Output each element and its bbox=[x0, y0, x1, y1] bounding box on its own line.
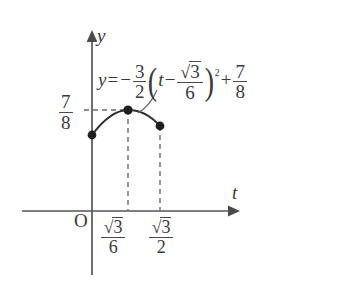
equation-leading-minus: − bbox=[119, 69, 132, 90]
y-value-label-7-8: 7 8 bbox=[58, 92, 74, 133]
fraction-denominator: 8 bbox=[233, 82, 247, 102]
fraction-sqrt3-2: √3 2 bbox=[149, 217, 173, 257]
fraction-numerator: √3 bbox=[177, 61, 202, 83]
equation-vertex-fraction: √3 6 bbox=[177, 61, 202, 103]
fraction-sqrt3-6: √3 6 bbox=[101, 217, 125, 257]
fraction-7-8: 7 8 bbox=[59, 92, 73, 133]
equation-constant-fraction: 7 8 bbox=[233, 62, 247, 103]
equation-coefficient-fraction: 3 2 bbox=[133, 62, 147, 103]
t-axis-label-text: t bbox=[232, 182, 237, 203]
point-vertex bbox=[123, 105, 132, 114]
origin-label: O bbox=[74, 211, 88, 230]
point-y-intercept bbox=[88, 131, 97, 140]
fraction-numerator: √3 bbox=[149, 217, 173, 238]
equation-annotation: y=− 3 2 (t− √3 6 )2+ 7 8 bbox=[98, 61, 248, 103]
radicand: 3 bbox=[112, 217, 123, 237]
fraction-denominator: 6 bbox=[177, 83, 202, 103]
fraction-denominator: 2 bbox=[149, 238, 173, 257]
equation-variable: t bbox=[158, 69, 163, 90]
radical: √3 bbox=[103, 217, 123, 237]
fraction-denominator: 8 bbox=[59, 113, 73, 133]
t-axis-label: t bbox=[232, 183, 237, 202]
equation-inner-minus: − bbox=[164, 69, 177, 90]
equation-exponent: 2 bbox=[215, 67, 220, 78]
fraction-denominator: 2 bbox=[133, 82, 147, 102]
radical: √3 bbox=[179, 61, 200, 82]
t-axis bbox=[22, 206, 240, 217]
point-right-endpoint bbox=[156, 122, 165, 131]
equation-plus: + bbox=[220, 69, 233, 90]
radical: √3 bbox=[151, 217, 171, 237]
open-paren: ( bbox=[148, 62, 157, 101]
tick-label-sqrt3-over-6: √3 6 bbox=[100, 217, 126, 257]
fraction-numerator: 7 bbox=[233, 62, 247, 83]
y-axis bbox=[87, 30, 98, 275]
math-figure: y t O 7 8 √3 6 √3 bbox=[0, 0, 341, 286]
fraction-numerator: 3 bbox=[133, 62, 147, 83]
equation-equals: = bbox=[106, 69, 119, 90]
y-axis-label-text: y bbox=[97, 25, 105, 46]
origin-label-text: O bbox=[74, 210, 88, 231]
tick-label-sqrt3-over-2: √3 2 bbox=[148, 217, 174, 257]
fraction-denominator: 6 bbox=[101, 238, 125, 257]
radicand: 3 bbox=[160, 217, 171, 237]
close-paren: ) bbox=[205, 62, 214, 101]
y-axis-label: y bbox=[97, 26, 105, 45]
fraction-numerator: √3 bbox=[101, 217, 125, 238]
fraction-numerator: 7 bbox=[59, 92, 73, 113]
radicand: 3 bbox=[189, 61, 201, 82]
